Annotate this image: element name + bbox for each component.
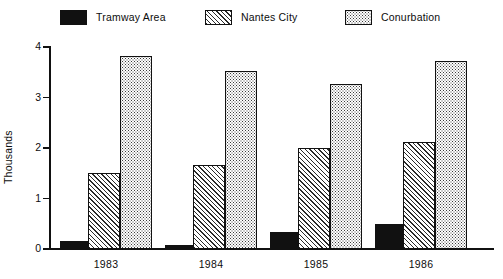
x-axis-tick-label-1986: 1986 — [391, 258, 451, 270]
y-axis-tick-label: 1 — [21, 193, 41, 204]
legend-label: Conurbation — [381, 12, 440, 23]
y-axis-tick-label: 2 — [21, 142, 41, 153]
chart-legend: Tramway Area Nantes City Conurbation — [0, 0, 503, 34]
bar-tramway-area-1983[interactable] — [60, 241, 88, 249]
bar-conurbation-1986[interactable] — [435, 61, 467, 249]
bar-conurbation-1983[interactable] — [120, 56, 152, 249]
bar-chart-plot-area: Thousands 0 1 2 3 4 1983 1984 1985 1986 — [0, 34, 503, 279]
bar-group-1985 — [270, 46, 362, 249]
y-axis-tick — [43, 248, 51, 250]
bar-tramway-area-1985[interactable] — [270, 232, 298, 249]
y-axis-label: Thousands — [2, 112, 18, 202]
y-axis-tick-label: 0 — [21, 243, 41, 254]
x-axis-tick-label-1985: 1985 — [286, 258, 346, 270]
y-axis-tick — [43, 147, 51, 149]
legend-item-nantes-city: Nantes City — [205, 10, 297, 25]
legend-label: Nantes City — [241, 12, 297, 23]
y-axis-tick — [43, 46, 51, 48]
bar-group-1983 — [60, 46, 152, 249]
legend-item-tramway-area: Tramway Area — [60, 10, 166, 25]
y-axis-tick-label: 4 — [21, 41, 41, 52]
legend-label: Tramway Area — [96, 12, 166, 23]
bar-conurbation-1985[interactable] — [330, 84, 362, 249]
legend-item-conurbation: Conurbation — [345, 10, 440, 25]
y-axis-tick-label: 3 — [21, 92, 41, 103]
bar-nantes-city-1983[interactable] — [88, 173, 120, 249]
bar-conurbation-1984[interactable] — [225, 71, 257, 249]
y-axis-tick — [43, 198, 51, 200]
legend-swatch-hatch-icon — [205, 10, 232, 25]
bar-nantes-city-1985[interactable] — [298, 148, 330, 250]
x-axis-tick-label-1983: 1983 — [76, 258, 136, 270]
bar-nantes-city-1984[interactable] — [193, 165, 225, 249]
legend-swatch-dots-icon — [345, 10, 372, 25]
x-axis-tick-label-1984: 1984 — [181, 258, 241, 270]
bar-tramway-area-1986[interactable] — [375, 224, 403, 249]
legend-swatch-solid-icon — [60, 10, 87, 25]
bar-group-1984 — [165, 46, 257, 249]
y-axis-tick — [43, 97, 51, 99]
bar-group-1986 — [375, 46, 467, 249]
bar-nantes-city-1986[interactable] — [403, 142, 435, 249]
bar-tramway-area-1984[interactable] — [165, 245, 193, 249]
